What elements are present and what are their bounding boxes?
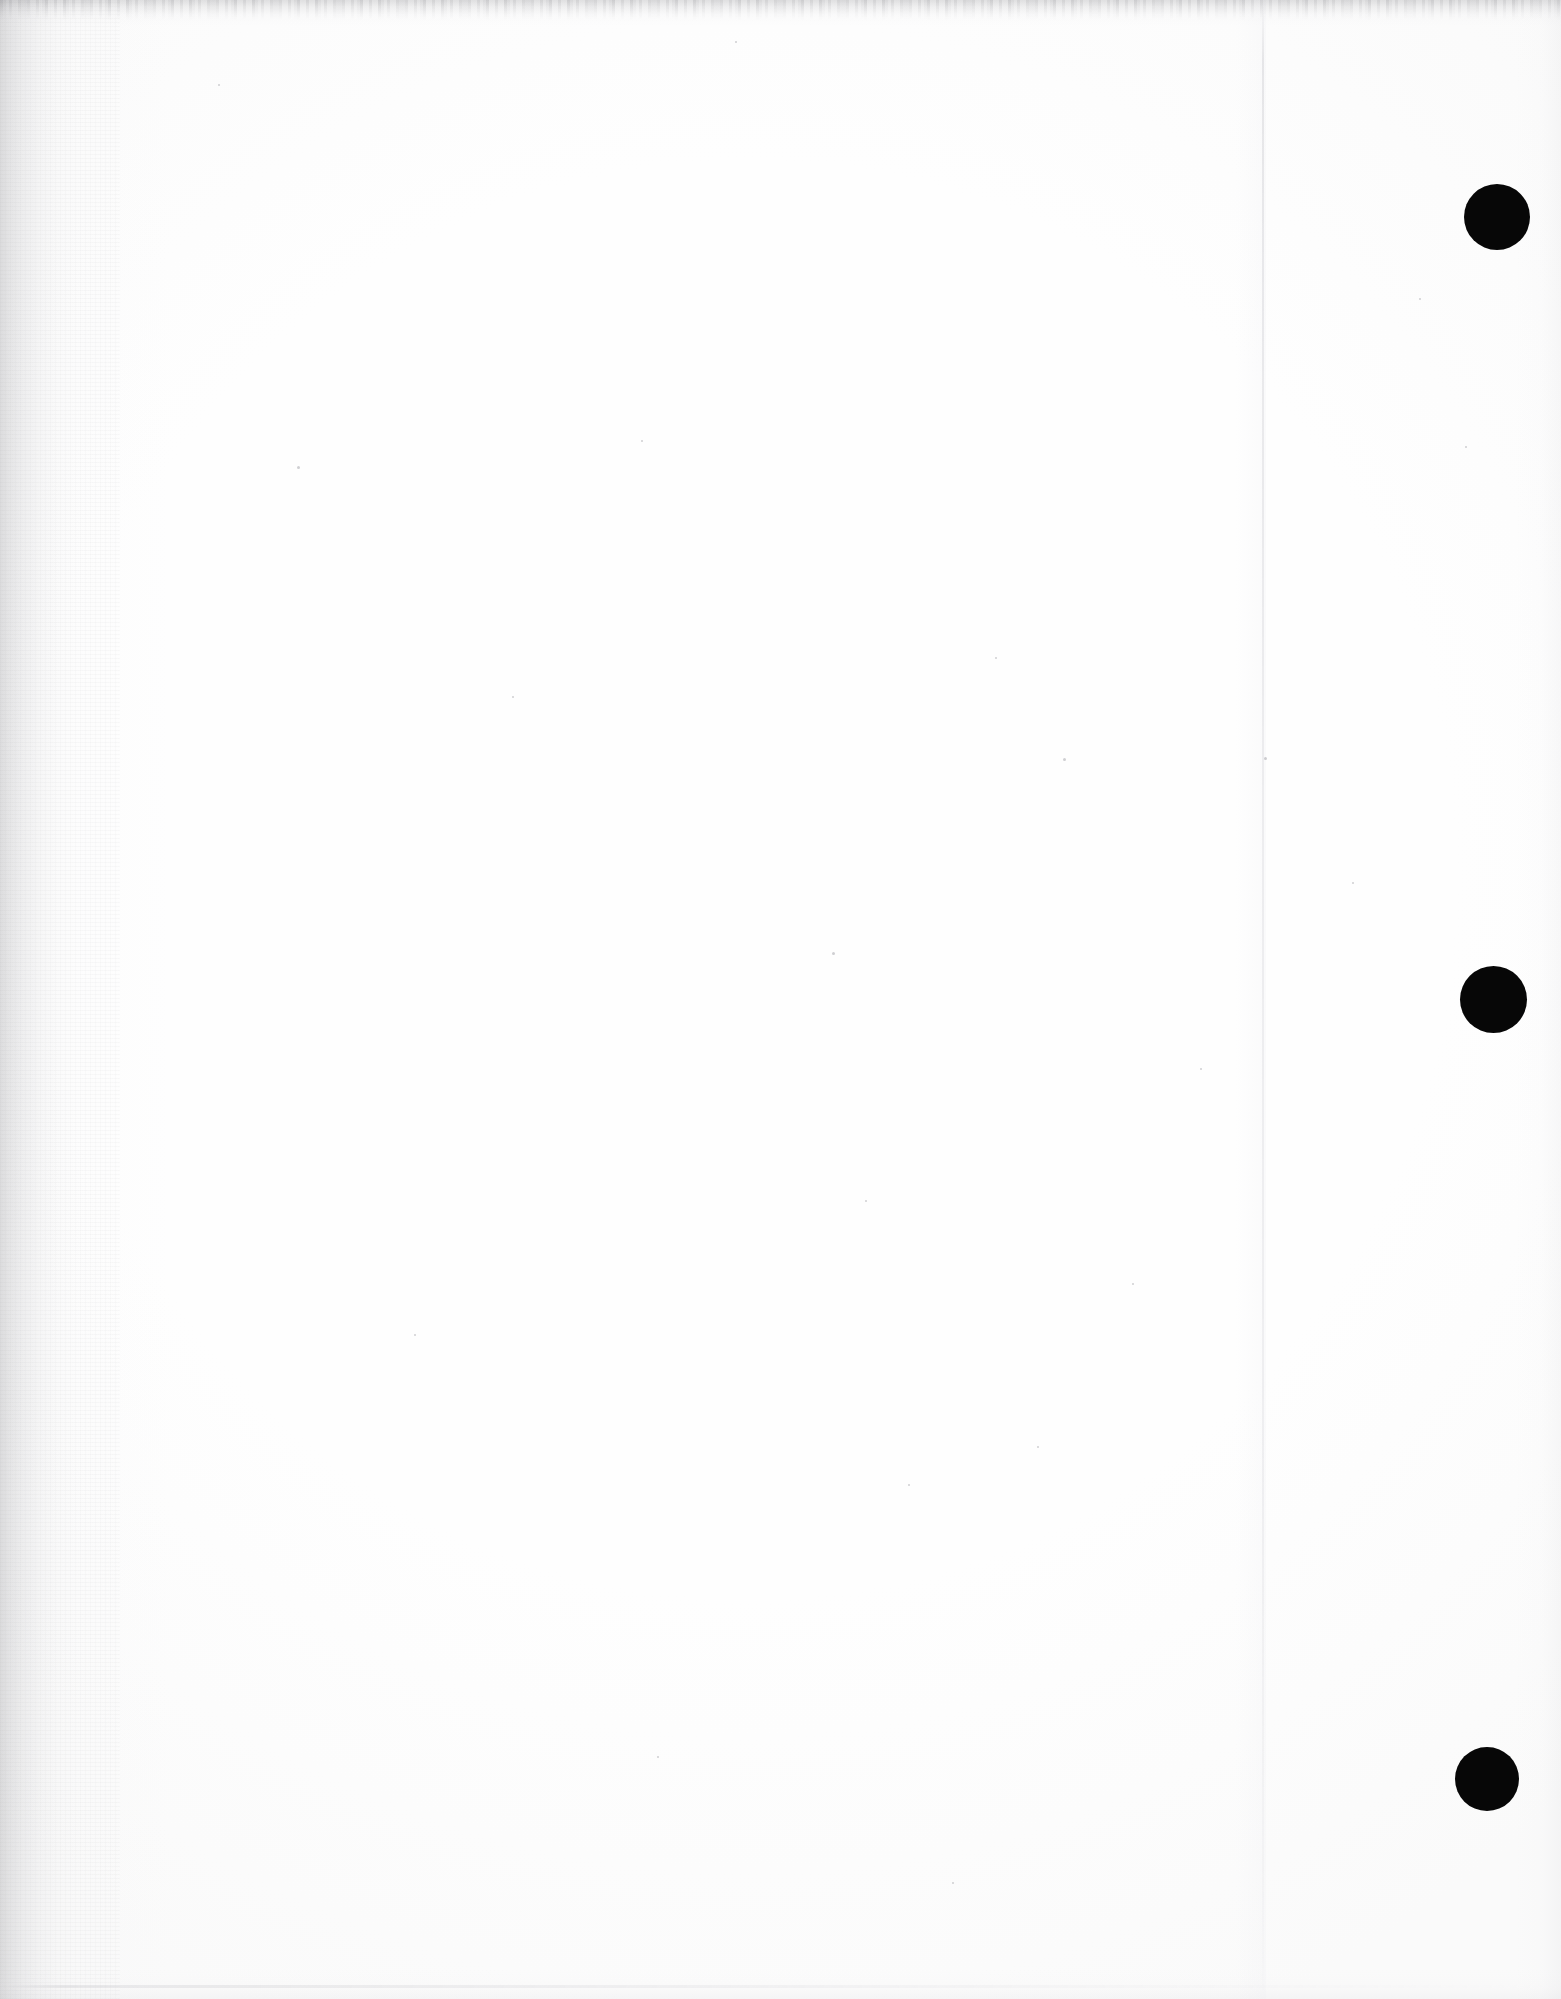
middle-punch-hole <box>1460 966 1527 1033</box>
top-punch-hole <box>1464 184 1530 250</box>
bottom-punch-hole <box>1455 1747 1519 1811</box>
three-hole-punch-group <box>0 0 1561 1999</box>
scanned-document-page <box>0 0 1561 1999</box>
